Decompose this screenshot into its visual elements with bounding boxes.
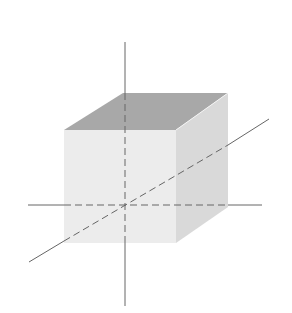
cube-axes-diagram (0, 0, 292, 313)
cube-front-face (64, 130, 176, 243)
cube (64, 93, 228, 243)
